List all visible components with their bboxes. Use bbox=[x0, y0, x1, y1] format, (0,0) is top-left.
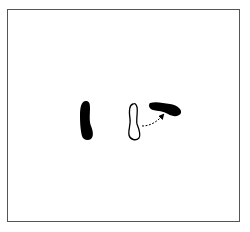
diagram-canvas bbox=[0, 0, 250, 232]
solid-footprint-vertical bbox=[80, 101, 93, 140]
solid-footprint-rotated bbox=[149, 102, 181, 116]
rotation-arrow bbox=[142, 115, 163, 126]
outline-footprint-vertical bbox=[129, 104, 140, 140]
